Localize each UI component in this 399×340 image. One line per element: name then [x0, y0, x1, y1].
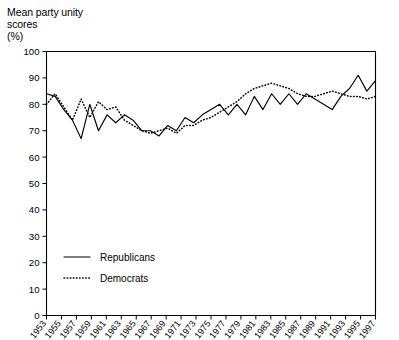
chart-plot-area: 0102030405060708090100 19531955195719591… [0, 0, 399, 340]
legend-label-republicans: Republicans [100, 252, 155, 263]
data-series-group [47, 75, 376, 138]
legend-label-democrats: Democrats [100, 273, 148, 284]
y-tick-label: 100 [23, 46, 39, 57]
axis-frame [47, 52, 376, 316]
y-tick-label: 60 [29, 152, 40, 163]
y-tick-label: 50 [29, 178, 40, 189]
series-line-republicans [47, 75, 376, 138]
y-tick-label: 20 [29, 257, 40, 268]
y-tick-label: 40 [29, 204, 40, 215]
x-tick-label: 1997 [357, 319, 377, 340]
chart-axis-title: Mean party unity scores (%) [7, 6, 83, 43]
party-unity-chart: Mean party unity scores (%) 010203040506… [0, 0, 399, 340]
series-line-democrats [47, 83, 376, 133]
y-tick-label: 30 [29, 231, 40, 242]
chart-legend: RepublicansDemocrats [64, 252, 155, 284]
y-tick-label: 10 [29, 284, 40, 295]
y-axis-ticks: 0102030405060708090100 [23, 46, 375, 321]
y-tick-label: 90 [29, 72, 40, 83]
y-tick-label: 70 [29, 125, 40, 136]
x-axis-ticks: 1953195519571959196119631965196719691971… [28, 316, 377, 340]
y-tick-label: 80 [29, 99, 40, 110]
